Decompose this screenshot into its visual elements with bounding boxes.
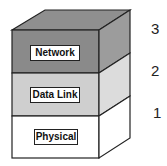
layer-label-network: Network [30,45,80,61]
layer-label-data-link: Data Link [30,87,80,103]
layer-number-2: 2 [151,62,159,79]
layer-number-3: 3 [151,20,159,37]
layer-stack-cube [0,0,167,166]
layer-number-1: 1 [153,104,161,121]
layer-label-physical: Physical [34,129,78,145]
